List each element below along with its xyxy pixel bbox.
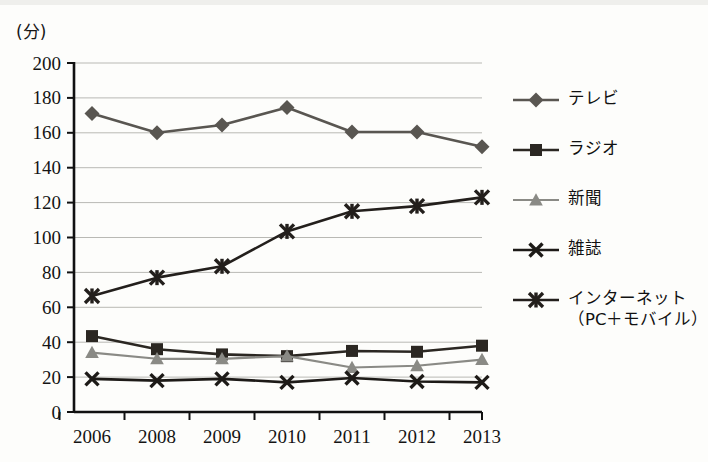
x-axis-labels: 2006200820092010201120122013	[73, 426, 501, 447]
y-axis-labels: 020406080100120140160180200	[33, 53, 62, 423]
svg-text:100: 100	[33, 227, 62, 248]
legend-label-radio: ラジオ	[568, 138, 619, 159]
series-line-4	[85, 190, 489, 304]
legend-swatch-triangle-icon	[512, 189, 560, 211]
chart-page: (分) 020406080100120140160180200 20062008…	[0, 0, 708, 462]
svg-text:2012: 2012	[398, 426, 436, 447]
legend-item-newspaper[interactable]: 新聞	[512, 188, 708, 214]
legend-label-television: テレビ	[568, 88, 619, 109]
legend-item-internet[interactable]: インターネット（PC＋モバイル）	[512, 288, 708, 314]
legend-swatch-star-cross-icon	[512, 289, 560, 311]
legend-label-internet-sub: （PC＋モバイル）	[568, 309, 708, 330]
svg-text:2009: 2009	[203, 426, 241, 447]
svg-text:2011: 2011	[333, 426, 370, 447]
legend-label-newspaper: 新聞	[568, 188, 602, 209]
svg-text:180: 180	[33, 87, 62, 108]
svg-text:2013: 2013	[463, 426, 501, 447]
legend-label-internet: インターネット（PC＋モバイル）	[568, 288, 708, 330]
legend-swatch-diamond-icon	[512, 89, 560, 111]
data-series-group	[85, 100, 490, 389]
svg-text:160: 160	[33, 122, 62, 143]
svg-text:120: 120	[33, 192, 62, 213]
svg-text:2006: 2006	[73, 426, 111, 447]
svg-text:2010: 2010	[268, 426, 306, 447]
svg-text:60: 60	[42, 297, 61, 318]
legend-label-internet-main: インターネット	[568, 289, 687, 308]
legend-swatch-x-cross-icon	[512, 239, 560, 261]
series-line-0	[85, 100, 490, 154]
legend-label-magazine: 雑誌	[568, 238, 602, 259]
svg-text:140: 140	[33, 157, 62, 178]
svg-text:20: 20	[42, 367, 61, 388]
legend-swatch-square-icon	[512, 139, 560, 161]
chart-legend: テレビ ラジオ 新聞 雑誌 インターネット（PC＋モバイル）	[512, 88, 708, 338]
svg-text:0: 0	[52, 402, 62, 423]
svg-text:2008: 2008	[138, 426, 176, 447]
series-line-3	[86, 371, 489, 388]
legend-item-radio[interactable]: ラジオ	[512, 138, 708, 164]
legend-item-magazine[interactable]: 雑誌	[512, 238, 708, 264]
legend-item-television[interactable]: テレビ	[512, 88, 708, 114]
svg-text:40: 40	[42, 332, 61, 353]
svg-text:200: 200	[33, 53, 62, 74]
svg-text:80: 80	[42, 262, 61, 283]
